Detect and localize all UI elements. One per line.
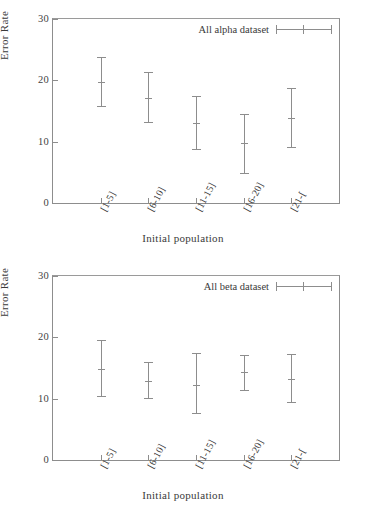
- y-tick-mark: [53, 203, 58, 204]
- y-tick-mark: [53, 460, 58, 461]
- legend-errorbar-icon: [276, 25, 332, 34]
- legend-beta: All beta dataset: [196, 278, 338, 295]
- chart-panel-beta: Error Rate All beta dataset 0102030 Init…: [0, 257, 366, 514]
- error-bar: [192, 96, 201, 149]
- y-tick-mark: [53, 276, 58, 277]
- x-axis-title-beta: Initial population: [0, 489, 366, 501]
- y-tick-mark: [53, 337, 58, 338]
- y-tick-mark: [53, 399, 58, 400]
- y-tick-label: 20: [9, 332, 49, 342]
- error-bar: [144, 72, 153, 123]
- y-tick-label: 0: [9, 455, 49, 465]
- plot-area-beta: All beta dataset 0102030: [52, 275, 340, 461]
- legend-errorbar-icon: [276, 282, 332, 291]
- legend-alpha: All alpha dataset: [190, 21, 338, 38]
- y-tick-label: 10: [9, 394, 49, 404]
- y-axis-title-beta: Error Rate: [0, 197, 10, 317]
- y-tick-label: 30: [9, 14, 49, 24]
- error-bar: [192, 353, 201, 414]
- error-bar: [240, 355, 249, 391]
- y-tick-label: 0: [9, 198, 49, 208]
- legend-label-alpha: All alpha dataset: [198, 24, 269, 35]
- plot-area-alpha: All alpha dataset 0102030: [52, 18, 340, 204]
- error-bar: [287, 88, 296, 149]
- error-bar: [240, 114, 249, 173]
- y-tick-label: 20: [9, 75, 49, 85]
- y-axis-title-alpha: Error Rate: [0, 0, 10, 60]
- legend-label-beta: All beta dataset: [204, 281, 269, 292]
- chart-panel-alpha: Error Rate All alpha dataset 0102030 Ini…: [0, 0, 366, 257]
- error-bar: [287, 354, 296, 403]
- y-tick-mark: [53, 19, 58, 20]
- y-tick-label: 30: [9, 271, 49, 281]
- y-tick-label: 10: [9, 137, 49, 147]
- error-rate-figure: Error Rate All alpha dataset 0102030 Ini…: [0, 0, 366, 514]
- error-bar: [97, 57, 106, 107]
- y-tick-mark: [53, 142, 58, 143]
- y-tick-mark: [53, 80, 58, 81]
- error-bar: [144, 362, 153, 399]
- error-bar: [97, 340, 106, 396]
- x-axis-title-alpha: Initial population: [0, 232, 366, 244]
